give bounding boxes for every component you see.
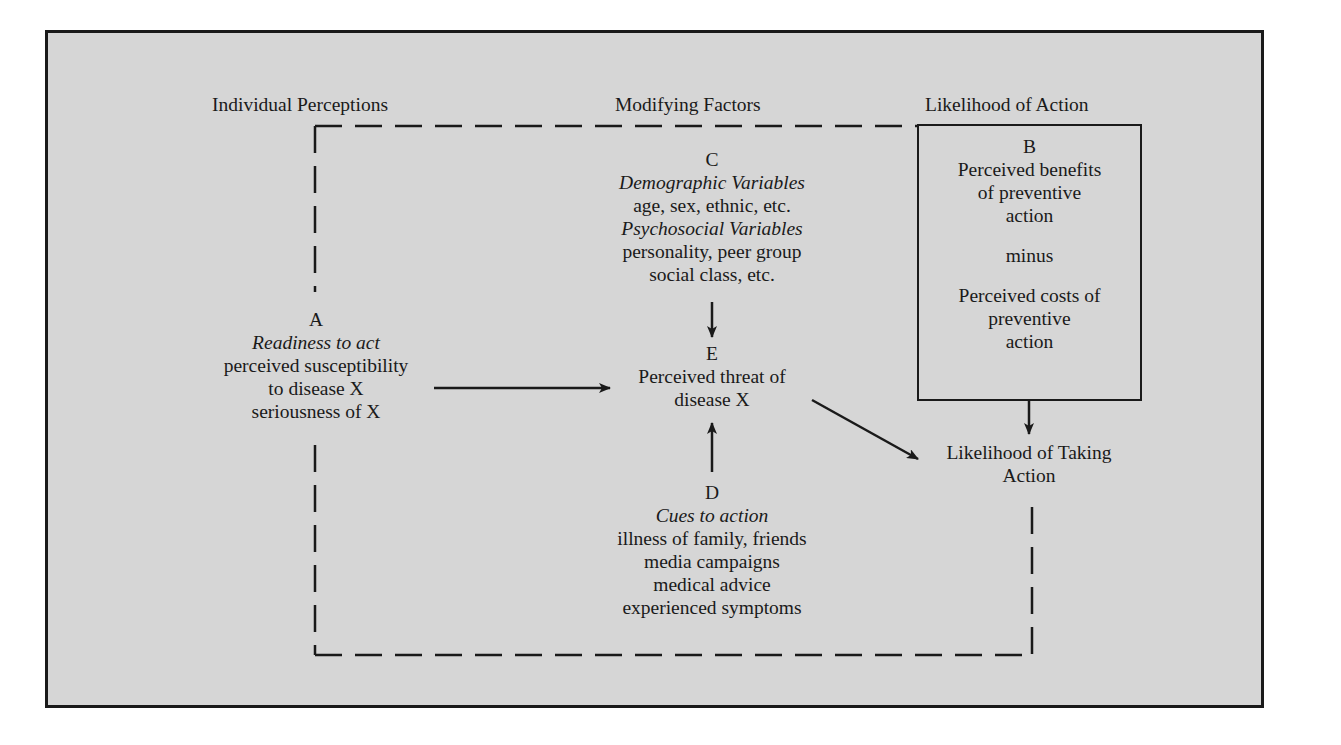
node-a-title: Readiness to act bbox=[196, 331, 436, 354]
node-d-line: experienced symptoms bbox=[582, 596, 842, 619]
node-b-line: action bbox=[919, 330, 1140, 353]
node-b-operator: minus bbox=[919, 244, 1140, 267]
node-a-letter: A bbox=[196, 308, 436, 331]
node-a-readiness: A Readiness to act perceived susceptibil… bbox=[196, 308, 436, 423]
node-b-line: preventive bbox=[919, 307, 1140, 330]
node-b-benefits-minus-costs: B Perceived benefits of preventive actio… bbox=[917, 124, 1142, 401]
node-outcome-likelihood-of-taking-action: Likelihood of Taking Action bbox=[909, 441, 1149, 487]
node-b-letter: B bbox=[919, 135, 1140, 158]
node-d-line: media campaigns bbox=[582, 550, 842, 573]
node-b-line: Perceived costs of bbox=[919, 284, 1140, 307]
node-c-demographic-items: age, sex, ethnic, etc. bbox=[582, 194, 842, 217]
node-c-psychosocial-items: social class, etc. bbox=[582, 263, 842, 286]
node-e-line: Perceived threat of bbox=[592, 365, 832, 388]
node-c-modifying-variables: C Demographic Variables age, sex, ethnic… bbox=[582, 148, 842, 286]
node-b-line: Perceived benefits bbox=[919, 158, 1140, 181]
outcome-line: Action bbox=[909, 464, 1149, 487]
header-individual-perceptions: Individual Perceptions bbox=[212, 93, 388, 116]
node-a-line: to disease X bbox=[196, 377, 436, 400]
node-c-title-psychosocial: Psychosocial Variables bbox=[582, 217, 842, 240]
node-a-line: seriousness of X bbox=[196, 400, 436, 423]
node-b-line: of preventive bbox=[919, 181, 1140, 204]
node-c-letter: C bbox=[582, 148, 842, 171]
node-d-line: illness of family, friends bbox=[582, 527, 842, 550]
node-e-letter: E bbox=[592, 342, 832, 365]
node-a-line: perceived susceptibility bbox=[196, 354, 436, 377]
node-c-title-demographic: Demographic Variables bbox=[582, 171, 842, 194]
node-e-perceived-threat: E Perceived threat of disease X bbox=[592, 342, 832, 411]
header-likelihood-of-action: Likelihood of Action bbox=[925, 93, 1089, 116]
node-b-line: action bbox=[919, 204, 1140, 227]
node-e-line: disease X bbox=[592, 388, 832, 411]
node-d-line: medical advice bbox=[582, 573, 842, 596]
node-d-cues-to-action: D Cues to action illness of family, frie… bbox=[582, 481, 842, 619]
node-c-psychosocial-items: personality, peer group bbox=[582, 240, 842, 263]
header-modifying-factors: Modifying Factors bbox=[615, 93, 761, 116]
node-d-letter: D bbox=[582, 481, 842, 504]
node-d-title: Cues to action bbox=[582, 504, 842, 527]
outcome-line: Likelihood of Taking bbox=[909, 441, 1149, 464]
